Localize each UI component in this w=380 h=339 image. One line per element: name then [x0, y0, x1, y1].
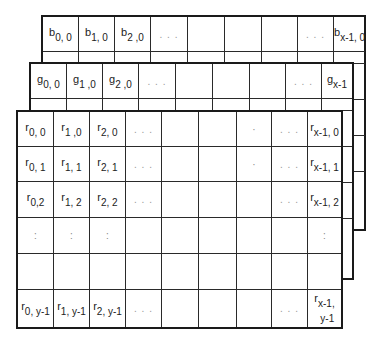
ellipsis: . . .: [280, 159, 299, 170]
red-cell: :: [18, 218, 54, 254]
red-cell: [162, 112, 199, 147]
blue-cell: . . .: [151, 17, 188, 52]
red-cell: [162, 182, 199, 218]
ellipsis: . . .: [134, 303, 153, 314]
blue-cell: b0, 0: [43, 17, 79, 52]
red-cell: [237, 254, 272, 290]
red-cell: r0,2: [18, 182, 54, 218]
cell-label: g2 ,0: [109, 73, 132, 90]
red-cell: . . .: [272, 147, 308, 182]
red-cell: ·: [237, 112, 272, 147]
cell-label: b1, 0: [85, 26, 108, 43]
red-cell: [237, 290, 272, 327]
red-cell: rx-1, 2: [308, 182, 341, 218]
red-cell: [199, 147, 237, 182]
ellipsis: . . .: [280, 303, 299, 314]
cell-label: r0, 1: [25, 156, 45, 173]
blue-cell: [225, 17, 262, 52]
cell-label: r0, y-1: [21, 300, 50, 317]
cell-label: r1, y-1: [57, 300, 86, 317]
cell-label: rx-1,y-1: [314, 292, 334, 325]
green-cell: . . .: [286, 64, 322, 99]
vertical-ellipsis: :: [106, 230, 109, 241]
ellipsis: . . .: [306, 29, 325, 40]
cell-label: g0, 0: [37, 73, 60, 90]
blue-cell: b2 ,0: [115, 17, 151, 52]
vertical-ellipsis: ·: [252, 124, 255, 135]
cell-label: bx-1, 0: [334, 26, 365, 43]
green-cell: [213, 64, 250, 99]
red-grid: r0, 0r1 ,0r2, 0. . .·. . .rx-1, 0r0, 1r1…: [18, 112, 341, 327]
red-cell: [199, 182, 237, 218]
red-cell: [308, 254, 341, 290]
cell-label: r2, y-1: [93, 300, 122, 317]
cell-label: rx-1, 1: [310, 156, 339, 173]
red-cell: . . .: [126, 112, 162, 147]
ellipsis: . . .: [280, 194, 299, 205]
vertical-ellipsis: :: [323, 230, 326, 241]
ellipsis: . . .: [148, 76, 167, 87]
green-cell: gx-1: [322, 64, 352, 99]
vertical-ellipsis: :: [34, 230, 37, 241]
green-cell: g2 ,0: [103, 64, 139, 99]
red-cell: [126, 218, 162, 254]
red-cell: [162, 147, 199, 182]
green-cell: [250, 64, 286, 99]
blue-cell: bx-1, 0: [334, 17, 365, 52]
ellipsis: . . .: [134, 159, 153, 170]
cell-label: rx-1, 0: [310, 121, 339, 138]
red-cell: [272, 254, 308, 290]
cell-label: g1 ,0: [73, 73, 96, 90]
red-cell: . . .: [126, 290, 162, 327]
cell-label: r0,2: [27, 191, 45, 208]
red-cell: r2, 0: [90, 112, 126, 147]
red-cell: ·: [237, 147, 272, 182]
red-cell: r1, 2: [54, 182, 90, 218]
green-cell: . . .: [139, 64, 176, 99]
cell-label: r2, 2: [97, 191, 117, 208]
red-cell: rx-1,y-1: [308, 290, 341, 327]
red-cell: r2, 2: [90, 182, 126, 218]
ellipsis: . . .: [160, 29, 179, 40]
red-cell: :: [54, 218, 90, 254]
blue-cell: [262, 17, 298, 52]
red-plane: r0, 0r1 ,0r2, 0. . .·. . .rx-1, 0r0, 1r1…: [16, 110, 343, 329]
cell-label: r1 ,0: [61, 121, 81, 138]
cell-label: r2, 0: [97, 121, 117, 138]
cell-label: gx-1: [327, 73, 347, 90]
red-cell: [272, 218, 308, 254]
red-cell: . . .: [126, 147, 162, 182]
red-cell: [199, 112, 237, 147]
cell-label: rx-1, 2: [310, 191, 339, 208]
cell-label: b0, 0: [49, 26, 72, 43]
cell-label: r1, 1: [61, 156, 81, 173]
red-cell: [199, 290, 237, 327]
red-cell: . . .: [272, 290, 308, 327]
blue-cell: . . .: [298, 17, 334, 52]
red-cell: r0, y-1: [18, 290, 54, 327]
ellipsis: . . .: [280, 124, 299, 135]
red-cell: rx-1, 0: [308, 112, 341, 147]
red-cell: [54, 254, 90, 290]
cell-label: r2, 1: [97, 156, 117, 173]
red-cell: r0, 1: [18, 147, 54, 182]
ellipsis: . . .: [134, 194, 153, 205]
red-cell: [199, 254, 237, 290]
red-cell: r1 ,0: [54, 112, 90, 147]
red-cell: . . .: [272, 112, 308, 147]
red-cell: . . .: [126, 182, 162, 218]
vertical-ellipsis: :: [70, 230, 73, 241]
red-cell: [18, 254, 54, 290]
ellipsis: . . .: [294, 76, 313, 87]
red-cell: [237, 218, 272, 254]
red-cell: :: [90, 218, 126, 254]
cell-label: b2 ,0: [121, 26, 144, 43]
red-cell: [90, 254, 126, 290]
red-cell: [162, 254, 199, 290]
red-cell: r2, y-1: [90, 290, 126, 327]
red-cell: [162, 218, 199, 254]
vertical-ellipsis: ·: [252, 159, 255, 170]
red-cell: r0, 0: [18, 112, 54, 147]
cell-label: r0, 0: [25, 121, 45, 138]
red-cell: :: [308, 218, 341, 254]
